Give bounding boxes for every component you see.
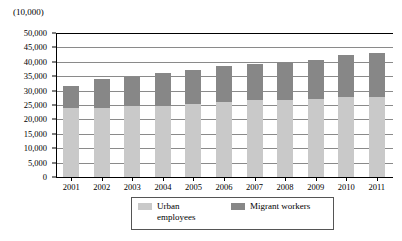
- bar-segment-urban-employees: [216, 102, 232, 177]
- bar-group: [308, 60, 324, 177]
- bar-segment-urban-employees: [247, 100, 263, 177]
- x-axis-tick-mark: [193, 178, 194, 181]
- y-axis-tick-label: 45,000: [24, 43, 47, 52]
- bar-group: [216, 66, 232, 177]
- x-axis-tick-label: 2002: [93, 182, 110, 192]
- bar-segment-migrant-workers: [63, 86, 79, 108]
- bar-group: [247, 64, 263, 177]
- bar-segment-migrant-workers: [308, 60, 324, 99]
- bar-segment-urban-employees: [63, 108, 79, 177]
- x-axis-tick-label: 2007: [246, 182, 263, 192]
- x-axis-tick-label: 2010: [338, 182, 355, 192]
- x-axis-tick-label: 2004: [154, 182, 171, 192]
- y-axis-tick-label: 5,000: [28, 158, 47, 167]
- x-axis-tick-label: 2011: [368, 182, 385, 192]
- y-axis-tick-label: 35,000: [24, 72, 47, 81]
- bar-segment-urban-employees: [185, 104, 201, 177]
- bar-segment-migrant-workers: [124, 77, 140, 107]
- bar-group: [124, 77, 140, 177]
- legend-item-urban-employees: Urban employees: [138, 201, 219, 223]
- bar-segment-migrant-workers: [216, 66, 232, 102]
- bar-group: [185, 70, 201, 177]
- bar-group: [94, 79, 110, 177]
- bar-segment-migrant-workers: [277, 62, 293, 99]
- x-axis-tick-label: 2009: [307, 182, 324, 192]
- stacked-bar-chart: (10,000) 05,00010,00015,00020,00025,0003…: [0, 0, 402, 241]
- x-axis-tick-mark: [285, 178, 286, 181]
- y-axis-tick-label: 30,000: [24, 86, 47, 95]
- x-axis-tick-mark: [163, 178, 164, 181]
- x-axis-tick-mark: [224, 178, 225, 181]
- x-axis-tick-mark: [132, 178, 133, 181]
- y-axis-tick-label: 10,000: [24, 144, 47, 153]
- legend-swatch-migrant-workers: [231, 203, 245, 210]
- bar-segment-urban-employees: [124, 106, 140, 177]
- x-axis-tick-mark: [255, 178, 256, 181]
- x-axis-tick-label: 2001: [63, 182, 80, 192]
- x-axis-tick-mark: [346, 178, 347, 181]
- bar-segment-urban-employees: [369, 97, 385, 177]
- x-axis-tick-label: 2008: [277, 182, 294, 192]
- x-axis-tick-label: 2003: [124, 182, 141, 192]
- y-axis-tick-label: 40,000: [24, 57, 47, 66]
- chart-legend: Urban employees Migrant workers: [131, 197, 334, 230]
- bar-group: [63, 86, 79, 177]
- x-axis: 2001200220032004200520062007200820092010…: [56, 178, 392, 196]
- x-axis-tick-mark: [316, 178, 317, 181]
- y-axis-tick-label: 20,000: [24, 115, 47, 124]
- x-axis-tick-mark: [71, 178, 72, 181]
- bar-segment-migrant-workers: [94, 79, 110, 108]
- legend-item-migrant-workers: Migrant workers: [231, 201, 310, 212]
- bar-group: [369, 53, 385, 177]
- bar-segment-urban-employees: [277, 100, 293, 177]
- y-axis-tick-label: 25,000: [24, 101, 47, 110]
- bar-segment-migrant-workers: [369, 53, 385, 97]
- bar-group: [277, 62, 293, 177]
- legend-swatch-urban-employees: [138, 203, 152, 210]
- bar-segment-urban-employees: [308, 99, 324, 177]
- bars-layer: [56, 33, 392, 177]
- bar-segment-urban-employees: [94, 108, 110, 177]
- x-axis-tick-mark: [102, 178, 103, 181]
- y-axis-tick-label: 0: [43, 173, 47, 182]
- bar-group: [338, 55, 354, 177]
- bar-segment-migrant-workers: [247, 64, 263, 100]
- y-axis: 05,00010,00015,00020,00025,00030,00035,0…: [0, 33, 56, 178]
- bar-segment-migrant-workers: [155, 73, 171, 106]
- y-axis-tick-label: 15,000: [24, 129, 47, 138]
- bar-segment-migrant-workers: [338, 55, 354, 96]
- legend-label-migrant-workers: Migrant workers: [250, 201, 310, 212]
- y-axis-tick-label: 50,000: [24, 29, 47, 38]
- bar-segment-urban-employees: [338, 97, 354, 177]
- legend-label-urban-employees: Urban employees: [157, 201, 219, 223]
- y-axis-unit-label: (10,000): [13, 7, 44, 18]
- x-axis-tick-mark: [377, 178, 378, 181]
- bar-segment-urban-employees: [155, 106, 171, 177]
- bar-group: [155, 73, 171, 177]
- x-axis-tick-label: 2005: [185, 182, 202, 192]
- x-axis-tick-label: 2006: [216, 182, 233, 192]
- bar-segment-migrant-workers: [185, 70, 201, 104]
